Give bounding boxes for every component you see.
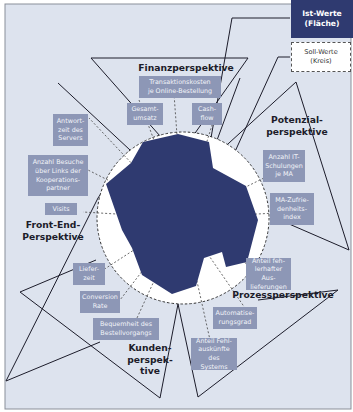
legend-ist-werte: Ist-Werte (Fläche) [291, 0, 353, 38]
finanzperspektive-title: Finanzperspektive [136, 62, 236, 74]
label-visits: Visits [45, 203, 77, 215]
kundenperspektive-title: Kunden- perspek- tive [120, 342, 180, 377]
label-fehlauskuenfte: Anteil Fehl- auskünfte des Systems [191, 338, 237, 370]
label-antwortzeit: Antwort- zeit des Servers [53, 114, 88, 146]
label-besuche-kooperation: Anzahl Besuche über Links der Kooperatio… [28, 155, 88, 196]
label-ma-zufriedenheit: MA-Zufrie- denheits- index [270, 193, 314, 225]
frontendperspektive-title: Front-End- Perspektive [18, 219, 88, 242]
label-conversion-rate: Conversion Rate [80, 291, 120, 313]
legend-soll-werte: Soll-Werte (Kreis) [291, 42, 351, 72]
label-cashflow: Cash- flow [192, 103, 222, 125]
label-fehlerhafte-auslieferungen: Anteil feh- lerhafter Aus- lieferungen [246, 258, 291, 290]
label-lieferzeit: Liefer- zeit [73, 263, 105, 285]
label-gesamtumsatz: Gesamt- umsatz [127, 103, 163, 125]
label-transaktionskosten: Transaktionskosten je Online-Bestellung [139, 76, 221, 98]
label-bequemlichkeit: Bequemheit des Bestellvorgangs [93, 318, 159, 340]
label-it-schulungen: Anzahl IT- Schulungen je MA [263, 150, 305, 182]
label-automatisierungsgrad: Automatise- rungsgrad [213, 307, 257, 329]
potenzialperspektive-title: Potenzial- perspektive [252, 114, 342, 137]
